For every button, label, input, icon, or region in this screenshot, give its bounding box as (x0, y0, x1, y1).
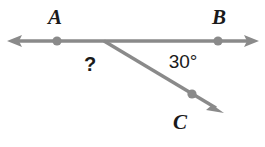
point-b-label: B (212, 7, 226, 28)
geometry-figure: A B C ? 30° (0, 0, 265, 147)
point-c-dot (187, 89, 196, 98)
point-a-dot (52, 36, 61, 45)
ray-vc (104, 41, 216, 108)
point-c-label: C (173, 112, 187, 133)
point-b-dot (213, 36, 222, 45)
ray-vc-group (104, 41, 224, 113)
known-angle-label: 30° (169, 52, 198, 71)
point-a-label: A (48, 7, 62, 28)
unknown-angle-label: ? (84, 54, 96, 74)
